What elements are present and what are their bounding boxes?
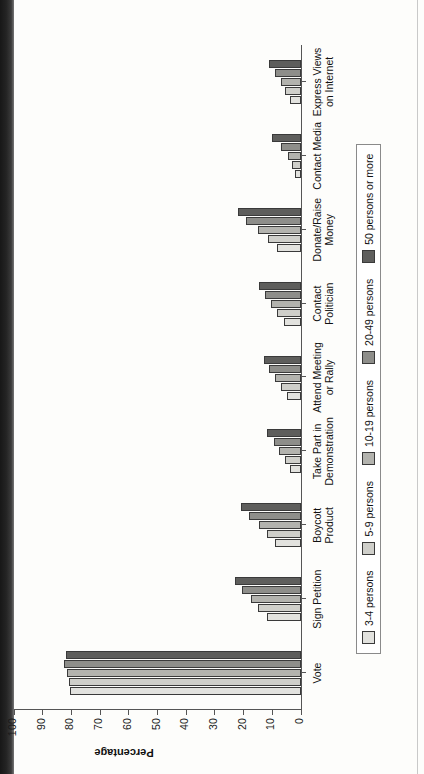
y-tick-mark (272, 710, 273, 715)
bar (67, 669, 301, 677)
bar (241, 503, 301, 511)
bar (258, 604, 301, 612)
legend-item: 10-19 persons (362, 380, 375, 465)
y-tick-label: 80 (63, 718, 75, 730)
bar (272, 134, 301, 142)
bar (290, 465, 301, 473)
bar (258, 226, 301, 234)
bar (259, 521, 301, 529)
y-tick-mark (42, 710, 43, 715)
bar (264, 356, 301, 364)
x-tick-mark (301, 155, 306, 156)
legend-item: 50 persons or more (362, 154, 375, 263)
y-tick-mark (14, 710, 15, 715)
legend-item: 20-49 persons (362, 279, 375, 364)
bar (69, 678, 301, 686)
bar (287, 392, 301, 400)
x-tick-mark (301, 598, 306, 599)
bar (267, 613, 301, 621)
legend-swatch (362, 250, 375, 263)
bar (275, 374, 301, 382)
bar (269, 365, 301, 373)
x-tick-mark (301, 377, 306, 378)
x-axis-line (301, 45, 302, 710)
bar (290, 96, 301, 104)
bar (251, 595, 301, 603)
bar-group (14, 414, 301, 488)
bar (267, 429, 301, 437)
x-category-label: Boycott Product (311, 488, 335, 562)
y-tick-mark (243, 710, 244, 715)
y-axis-title: Percentage (64, 747, 184, 759)
x-tick-mark (301, 303, 306, 304)
bar (66, 651, 301, 659)
bar (275, 539, 301, 547)
legend-item: 3-4 persons (362, 571, 375, 644)
y-tick-mark (128, 710, 129, 715)
bar (275, 69, 301, 77)
bar (284, 318, 301, 326)
y-tick-label: 10 (264, 718, 276, 730)
x-category-label: Take Part in Demonstration (311, 414, 335, 488)
bar (246, 217, 301, 225)
y-tick-label: 70 (92, 718, 104, 730)
x-tick-mark (301, 672, 306, 673)
legend-swatch (362, 631, 375, 644)
bar-group (14, 119, 301, 193)
y-tick-label: 20 (236, 718, 248, 730)
x-category-label: Express Views on Internet (311, 45, 335, 119)
legend-item: 5-9 persons (362, 481, 375, 554)
legend-swatch (362, 351, 375, 364)
bar (64, 660, 301, 668)
bar (238, 208, 301, 216)
bar-group (14, 636, 301, 710)
legend-swatch (362, 542, 375, 555)
bar (288, 152, 301, 160)
y-tick-mark (157, 710, 158, 715)
x-tick-mark (301, 81, 306, 82)
bar (267, 530, 301, 538)
x-category-label: Attend Meeting or Rally (311, 341, 335, 415)
y-tick-mark (186, 710, 187, 715)
x-tick-mark (301, 229, 306, 230)
y-tick-label: 40 (178, 718, 190, 730)
y-tick-label: 50 (150, 718, 162, 730)
bar (281, 143, 301, 151)
x-category-label: Contact Politician (311, 267, 335, 341)
chart-legend: 3-4 persons5-9 persons10-19 persons20-49… (356, 144, 381, 654)
y-tick-mark (214, 710, 215, 715)
bar (279, 447, 301, 455)
bar (285, 456, 301, 464)
y-tick-label: 60 (121, 718, 133, 730)
bar (269, 60, 301, 68)
x-category-label: Donate/Raise Money (311, 193, 335, 267)
legend-label: 50 persons or more (363, 154, 375, 245)
bar (277, 309, 301, 317)
y-tick-label: 30 (207, 718, 219, 730)
bar (259, 282, 301, 290)
bar (235, 577, 301, 585)
bar-group (14, 45, 301, 119)
bar (295, 170, 301, 178)
bar (271, 300, 301, 308)
x-tick-mark (301, 524, 306, 525)
x-category-label: Vote (311, 636, 323, 710)
bar (281, 383, 301, 391)
x-category-label: Contact Media (311, 119, 323, 193)
bar (265, 291, 301, 299)
bar-group (14, 193, 301, 267)
legend-label: 20-49 persons (363, 279, 375, 346)
y-tick-mark (100, 710, 101, 715)
y-tick-mark (71, 710, 72, 715)
legend-label: 10-19 persons (363, 380, 375, 447)
legend-label: 3-4 persons (363, 571, 375, 626)
bar (292, 161, 301, 169)
bar-group (14, 267, 301, 341)
bar (249, 512, 301, 520)
x-category-label: Sign Petition (311, 562, 323, 636)
bar (274, 438, 301, 446)
bar-group (14, 341, 301, 415)
y-tick-label: 100 (6, 718, 18, 736)
y-tick-mark (301, 710, 302, 715)
rotated-figure-container: Percentage 0102030405060708090100 VoteSi… (0, 0, 424, 774)
